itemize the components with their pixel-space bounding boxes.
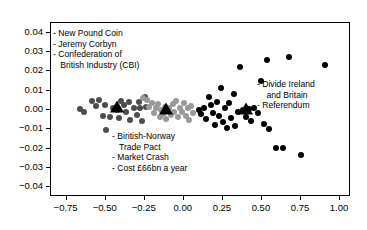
data-point — [273, 145, 279, 151]
x-axis-tick — [105, 196, 106, 200]
data-point — [232, 123, 238, 129]
data-point — [116, 115, 122, 121]
scatter-plot-figure: −0.04−0.03−0.02−0.010.000.010.020.030.04… — [0, 0, 367, 230]
data-point — [231, 91, 237, 97]
data-point — [214, 99, 220, 105]
data-point — [261, 121, 267, 127]
x-axis-tick — [183, 196, 184, 200]
y-axis-tick-label: −0.03 — [0, 161, 43, 172]
y-axis-tick-label: −0.01 — [0, 122, 43, 133]
annotation-right: - Divide Ireland and Britain - Referendu… — [257, 79, 315, 111]
data-point — [280, 145, 286, 151]
annotation-top-left: - New Pound Coin - Jeremy Corbyn - Confe… — [53, 28, 139, 70]
data-point — [226, 100, 232, 106]
cluster-centroid-marker — [159, 103, 173, 115]
y-axis-tick-label: −0.04 — [0, 180, 43, 191]
y-axis-tick-label: 0.01 — [0, 84, 43, 95]
x-axis-tick — [261, 196, 262, 200]
x-axis-tick — [144, 196, 145, 200]
data-point — [103, 127, 109, 133]
x-axis-tick-label: 0.50 — [252, 202, 271, 213]
x-axis-tick-label: 0.00 — [174, 202, 193, 213]
x-axis-tick — [66, 196, 67, 200]
data-point — [286, 54, 292, 60]
data-point — [206, 94, 212, 100]
y-axis-tick-label: 0.04 — [0, 26, 43, 37]
data-point — [212, 122, 218, 128]
data-point — [203, 116, 209, 122]
x-axis-tick-label: 1.00 — [330, 202, 349, 213]
data-point — [255, 110, 261, 116]
data-point — [188, 103, 194, 109]
x-axis-tick — [222, 196, 223, 200]
data-point — [208, 102, 214, 108]
data-point — [81, 109, 87, 115]
data-point — [228, 115, 234, 121]
data-point — [139, 118, 145, 124]
data-point — [248, 118, 254, 124]
x-axis-tick-label: 0.25 — [213, 202, 232, 213]
data-point — [266, 126, 272, 132]
data-point — [224, 125, 230, 131]
data-point — [100, 113, 106, 119]
data-point — [190, 110, 196, 116]
y-axis-tick-label: −0.02 — [0, 142, 43, 153]
y-axis-tick-label: 0.00 — [0, 103, 43, 114]
data-point — [131, 105, 137, 111]
data-point — [175, 114, 181, 120]
x-axis-tick — [300, 196, 301, 200]
data-point — [264, 57, 270, 63]
data-point — [173, 98, 179, 104]
cluster-centroid-marker — [239, 103, 253, 115]
x-axis-tick-label: −0.25 — [132, 202, 156, 213]
data-point — [102, 102, 108, 108]
data-point — [93, 103, 99, 109]
data-point — [222, 105, 228, 111]
x-axis-tick-label: 0.75 — [291, 202, 310, 213]
x-axis-tick — [339, 196, 340, 200]
y-axis-tick-label: 0.03 — [0, 45, 43, 56]
x-axis-tick-label: −0.75 — [54, 202, 78, 213]
data-point — [322, 62, 328, 68]
annotation-bottom-left: - Biritish-Norway Trade Pact - Market Cr… — [112, 131, 187, 173]
data-point — [298, 152, 304, 158]
data-point — [107, 114, 113, 120]
data-point — [127, 117, 133, 123]
data-point — [186, 117, 192, 123]
cluster-centroid-marker — [110, 101, 124, 113]
y-axis-tick-label: 0.02 — [0, 64, 43, 75]
x-axis-tick-label: −0.50 — [93, 202, 117, 213]
data-point — [210, 110, 216, 116]
data-point — [201, 105, 207, 111]
data-point — [237, 64, 243, 70]
data-point — [218, 85, 224, 91]
